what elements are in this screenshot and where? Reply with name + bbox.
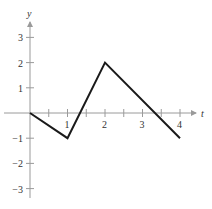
y-tick-label: −2 <box>12 158 23 169</box>
x-tick-label: 2 <box>102 119 107 130</box>
x-tick-label: 1 <box>65 119 70 130</box>
y-tick-label: 1 <box>18 83 23 94</box>
y-tick-label: 3 <box>18 32 23 43</box>
axes <box>4 22 196 198</box>
line-chart: 1234 321−1−2−3 t y <box>0 0 212 209</box>
x-tick-label: 4 <box>177 119 182 130</box>
x-axis-label: t <box>201 108 204 119</box>
y-tick-label: −3 <box>12 184 23 195</box>
x-tick-label: 3 <box>140 119 145 130</box>
y-axis-label: y <box>26 8 32 19</box>
y-tick-label: −1 <box>12 133 23 144</box>
y-tick-label: 2 <box>18 58 23 69</box>
